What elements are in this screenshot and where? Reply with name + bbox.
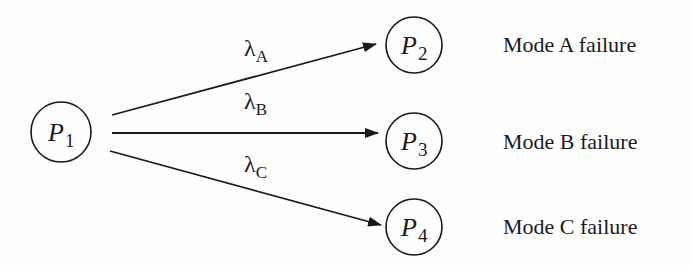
node-p4: P4 xyxy=(386,199,442,255)
edge-rate-label-b: λB xyxy=(244,88,267,119)
node-p2: P2 xyxy=(386,17,442,73)
node-p3-label: P3 xyxy=(400,127,427,160)
edge-rate-label-a: λA xyxy=(244,35,269,66)
node-p3: P3 xyxy=(386,113,442,169)
edge-p1-p3: λB xyxy=(112,88,378,133)
node-p1: P1 xyxy=(31,102,91,162)
edge-p1-p4: λC xyxy=(110,151,381,225)
mode-b-label: Mode B failure xyxy=(503,129,637,154)
mode-a-label: Mode A failure xyxy=(503,32,636,57)
mode-c-label: Mode C failure xyxy=(503,214,637,239)
edge-rate-label-c: λC xyxy=(244,151,267,182)
node-p2-label: P2 xyxy=(400,31,427,64)
failure-mode-diagram: P1 P2 P3 P4 λA λB λC xyxy=(0,0,693,265)
node-p4-label: P4 xyxy=(400,213,428,246)
node-p1-label: P1 xyxy=(47,118,74,151)
